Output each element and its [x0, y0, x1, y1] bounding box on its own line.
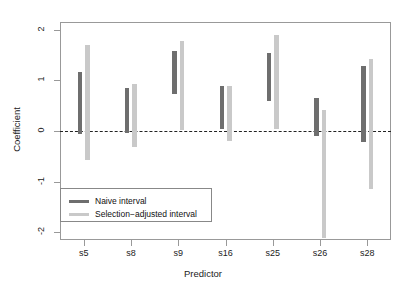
x-tick-mark — [178, 240, 179, 246]
x-tick-label: s9 — [158, 248, 198, 258]
x-tick-mark — [131, 240, 132, 246]
y-tick-label: -2 — [36, 222, 46, 240]
interval-bar — [172, 51, 177, 95]
x-tick-mark — [273, 240, 274, 246]
y-tick-mark — [54, 182, 60, 183]
x-tick-label: s5 — [64, 248, 104, 258]
interval-bar — [132, 84, 137, 147]
interval-bar — [85, 45, 90, 160]
legend-item: Naive interval — [69, 197, 147, 206]
x-tick-mark — [84, 240, 85, 246]
x-axis-title: Predictor — [0, 268, 406, 279]
x-tick-label: s25 — [253, 248, 293, 258]
y-tick-label: 0 — [36, 121, 46, 139]
y-tick-mark — [54, 30, 60, 31]
interval-bar — [78, 72, 83, 134]
x-tick-mark — [320, 240, 321, 246]
interval-bar — [227, 86, 232, 140]
y-tick-mark — [54, 232, 60, 233]
x-tick-mark — [367, 240, 368, 246]
y-tick-label: 1 — [36, 70, 46, 88]
legend-swatch — [69, 213, 89, 216]
zero-reference-line — [60, 131, 391, 132]
x-tick-label: s28 — [347, 248, 387, 258]
x-tick-label: s16 — [206, 248, 246, 258]
x-tick-label: s8 — [111, 248, 151, 258]
interval-bar — [267, 53, 272, 100]
y-tick-label: 2 — [36, 20, 46, 38]
interval-bar — [369, 59, 374, 189]
interval-bar — [361, 66, 366, 142]
y-axis-title: Coefficient — [11, 100, 22, 160]
interval-bar — [274, 35, 279, 130]
interval-bar — [220, 86, 225, 129]
legend-swatch — [69, 200, 89, 203]
y-tick-mark — [54, 80, 60, 81]
chart-canvas: -2-1012 s5s8s9s16s25s26s28 Naive interva… — [0, 0, 406, 285]
interval-bar — [180, 41, 185, 130]
y-tick-label: -1 — [36, 172, 46, 190]
legend: Naive intervalSelection−adjusted interva… — [60, 188, 212, 222]
interval-bar — [322, 110, 327, 239]
legend-item: Selection−adjusted interval — [69, 210, 197, 219]
interval-bar — [125, 88, 130, 133]
legend-label: Selection−adjusted interval — [95, 210, 197, 219]
x-tick-label: s26 — [300, 248, 340, 258]
x-tick-mark — [226, 240, 227, 246]
legend-label: Naive interval — [95, 197, 147, 206]
interval-bar — [314, 98, 319, 137]
